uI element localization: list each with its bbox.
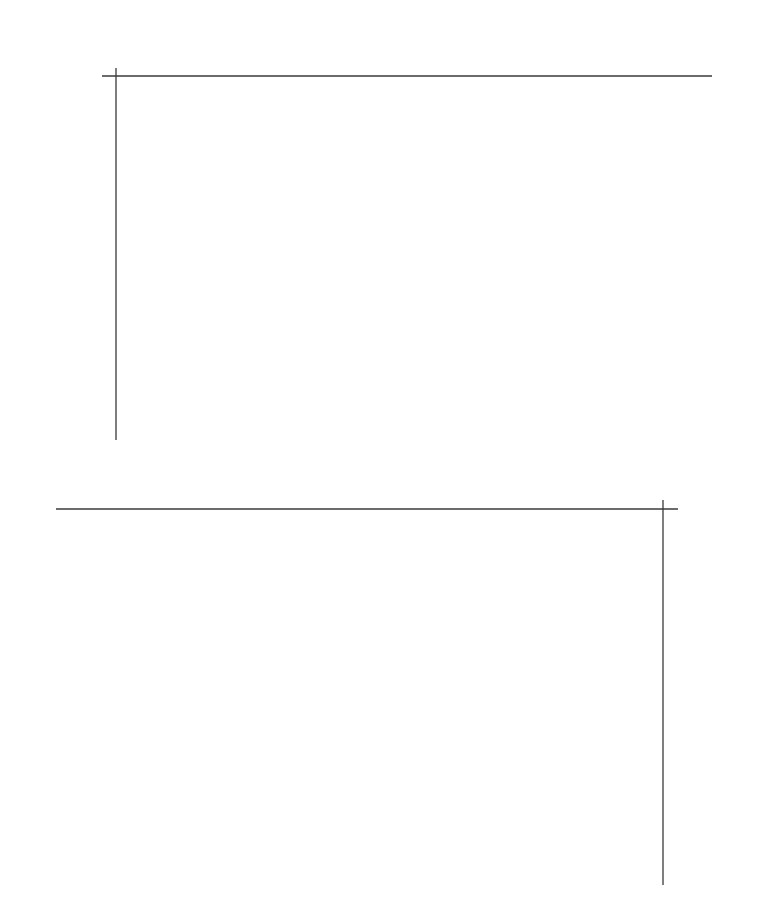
bottom-chart (56, 500, 678, 885)
top-chart (102, 68, 712, 440)
figure-canvas (0, 0, 784, 913)
